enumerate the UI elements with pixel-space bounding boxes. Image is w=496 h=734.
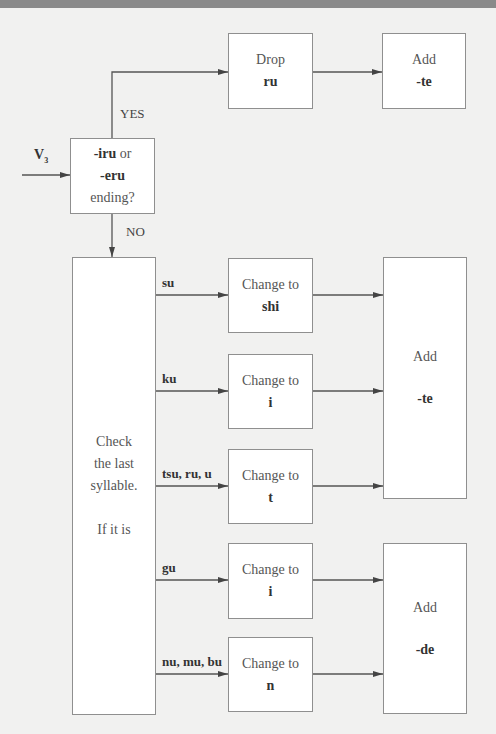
drop-ru-box: Drop ru <box>228 33 313 109</box>
check-syllable-box: Check the last syllable. If it is <box>72 257 156 715</box>
change-label: Change to <box>242 465 299 487</box>
change-to-i-box-2: Change to i <box>228 543 313 619</box>
add-de-box: Add -de <box>383 543 467 714</box>
change-label: Change to <box>242 653 299 675</box>
input-label-v3: V3 <box>34 147 48 165</box>
change-to-i-box: Change to i <box>228 354 313 429</box>
change-to-n-box: Change to n <box>228 637 313 712</box>
case-label-tsu-ru-u: tsu, ru, u <box>162 466 212 482</box>
drop-label: Drop <box>256 49 285 71</box>
change-label: Change to <box>242 370 299 392</box>
case-label-gu: gu <box>162 560 176 576</box>
case-label-nu-mu-bu: nu, mu, bu <box>162 654 222 670</box>
add-te-suffix: -te <box>416 71 432 93</box>
add-label: Add <box>413 346 437 368</box>
input-label-subscript: 3 <box>44 156 48 165</box>
decision-ending: ending? <box>90 187 134 209</box>
change-label: Change to <box>242 559 299 581</box>
drop-ru: ru <box>264 71 278 93</box>
change-label: Change to <box>242 274 299 296</box>
add-label: Add <box>413 597 437 619</box>
case-label-su: su <box>162 275 174 291</box>
add-de-suffix: -de <box>416 639 435 661</box>
decision-or: or <box>116 146 131 161</box>
decision-eru: -eru <box>100 165 125 187</box>
yes-label: YES <box>120 106 145 122</box>
decision-iru: -iru <box>94 146 117 161</box>
check-line3: syllable. <box>90 475 137 497</box>
decision-line1: -iru or <box>94 143 132 165</box>
decision-box: -iru or -eru ending? <box>70 138 155 214</box>
add-label: Add <box>412 49 436 71</box>
no-label: NO <box>126 224 145 240</box>
check-line4: If it is <box>97 519 130 541</box>
change-to-shi-box: Change to shi <box>228 258 313 333</box>
change-result: i <box>269 581 273 603</box>
add-te-suffix: -te <box>417 388 433 410</box>
change-result: shi <box>262 296 279 318</box>
case-label-ku: ku <box>162 371 176 387</box>
check-line2: the last <box>94 453 134 475</box>
add-te-top-box: Add -te <box>382 33 466 109</box>
check-line1: Check <box>96 431 132 453</box>
input-label-text: V <box>34 147 44 162</box>
add-te-box: Add -te <box>383 257 467 499</box>
change-result: t <box>268 487 273 509</box>
change-result: i <box>269 392 273 414</box>
change-result: n <box>267 675 275 697</box>
change-to-t-box: Change to t <box>228 449 313 524</box>
